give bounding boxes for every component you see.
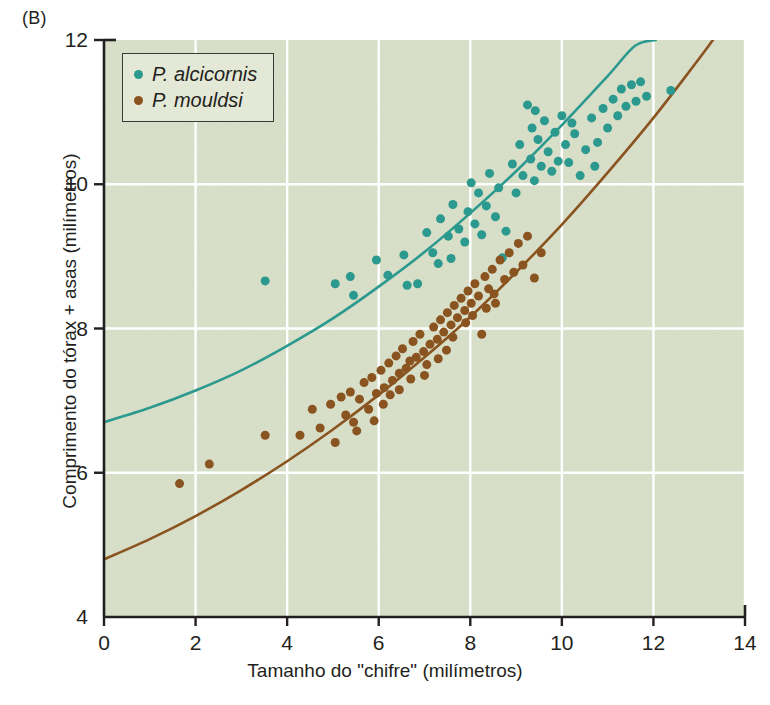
figure-panel-b: (B) 024681012144681012 P. alcicornis P. … bbox=[0, 0, 770, 705]
x-tick-label: 0 bbox=[98, 631, 110, 655]
x-tick-label: 2 bbox=[190, 631, 202, 655]
x-tick-label: 12 bbox=[642, 631, 665, 655]
x-tick-label: 8 bbox=[464, 631, 476, 655]
legend-marker-alcicornis bbox=[134, 70, 143, 79]
legend: P. alcicornis P. mouldsi bbox=[122, 53, 274, 122]
x-axis-title: Tamanho do "chifre" (milímetros) bbox=[0, 660, 770, 682]
legend-item: P. mouldsi bbox=[134, 87, 257, 113]
x-tick-label: 6 bbox=[373, 631, 385, 655]
legend-item: P. alcicornis bbox=[134, 61, 257, 87]
y-tick-label: 12 bbox=[46, 28, 88, 52]
y-axis-title: Comprimento do tórax + asas (milímetros) bbox=[59, 51, 81, 611]
legend-label-mouldsi: P. mouldsi bbox=[152, 90, 243, 110]
legend-marker-mouldsi bbox=[134, 96, 143, 105]
scatter-plot-canvas bbox=[0, 0, 770, 705]
legend-label-alcicornis: P. alcicornis bbox=[152, 64, 257, 84]
x-tick-label: 4 bbox=[281, 631, 293, 655]
x-tick-label: 10 bbox=[550, 631, 573, 655]
x-tick-label: 14 bbox=[733, 631, 756, 655]
